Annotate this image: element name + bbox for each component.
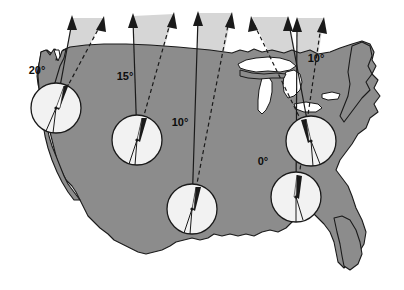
compass-rose-mountain xyxy=(112,115,162,165)
declination-label-mountain: 15° xyxy=(117,70,134,82)
compass-rose-great-lakes xyxy=(286,116,336,166)
declination-label-great-lakes: 10° xyxy=(308,52,325,64)
declination-label-west: 20° xyxy=(29,64,46,76)
declination-label-central: 10° xyxy=(172,116,189,128)
compass-rose-central xyxy=(167,184,217,234)
compass-rose-west xyxy=(31,83,81,133)
lake-ontario xyxy=(322,92,340,100)
compass-rose-east xyxy=(271,172,321,222)
map-svg: 20° 15° 10° 10° 0° xyxy=(0,0,404,290)
declination-label-east: 0° xyxy=(258,155,269,167)
magnetic-declination-map: 20° 15° 10° 10° 0° xyxy=(0,0,404,290)
